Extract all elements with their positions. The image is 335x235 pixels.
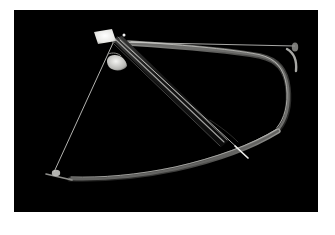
photo-frame bbox=[0, 0, 335, 235]
sight-spark-icon bbox=[123, 34, 126, 37]
photograph-canvas bbox=[14, 10, 318, 212]
photo-background bbox=[14, 10, 318, 212]
cam-upper bbox=[292, 42, 298, 51]
cam-lower bbox=[52, 170, 60, 176]
crossbow-illustration bbox=[14, 10, 318, 212]
